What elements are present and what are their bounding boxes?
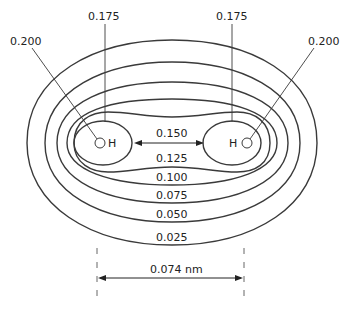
dimension-arrow-head-left (98, 275, 106, 281)
label-0.025: 0.025 (156, 231, 188, 244)
label-0.075: 0.075 (156, 189, 188, 202)
label-0.175-left: 0.175 (88, 10, 120, 23)
label-0.175-right: 0.175 (216, 10, 248, 23)
h2-electron-density-diagram: H H 0.175 0.175 0.200 0.200 0.150 0.125 … (0, 0, 340, 314)
label-0.100: 0.100 (156, 171, 188, 184)
atom-label-left: H (108, 137, 116, 150)
label-0.200-right: 0.200 (308, 35, 340, 48)
inner-arrow-head-left (134, 140, 142, 146)
label-0.150: 0.150 (156, 127, 188, 140)
bond-length-label: 0.074 nm (150, 263, 203, 276)
dimension-arrow-head-right (235, 275, 243, 281)
leader-0.200-right (250, 48, 314, 139)
nucleus-right (242, 138, 252, 148)
nucleus-left (95, 138, 105, 148)
label-0.200-left: 0.200 (10, 35, 42, 48)
label-0.050: 0.050 (156, 208, 188, 221)
atom-label-right: H (229, 137, 237, 150)
label-0.125: 0.125 (156, 152, 188, 165)
